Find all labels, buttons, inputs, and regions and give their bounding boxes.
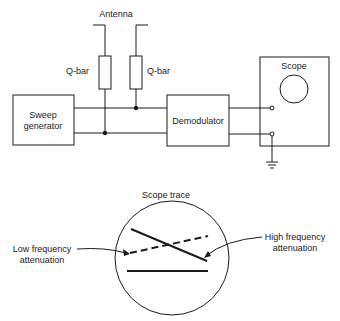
diagram-canvas: Antenna Q-bar Q-bar Sweep generator Demo… (0, 0, 340, 321)
sweep-label-2: generator (24, 121, 63, 131)
low-freq-label-1: Low frequency (13, 244, 72, 254)
ground-icon (266, 162, 278, 168)
high-freq-arrow (206, 237, 262, 256)
qbar-left-label: Q-bar (66, 66, 89, 76)
high-freq-label-2: attenuation (273, 243, 318, 253)
demodulator-label: Demodulator (172, 116, 224, 126)
antenna-label: Antenna (99, 9, 133, 19)
arrowhead-icon (123, 249, 130, 256)
qbar-right (130, 56, 142, 89)
scope-screen-icon (280, 75, 308, 103)
antenna-left (93, 25, 105, 56)
scope-trace-title: Scope trace (142, 190, 190, 200)
qbar-left (99, 56, 111, 89)
sweep-generator-box (13, 95, 74, 145)
trace-dashed (130, 236, 208, 253)
high-freq-label-1: High frequency (265, 232, 326, 242)
junction-dot (134, 106, 138, 110)
terminal-bottom (270, 132, 274, 136)
qbar-right-label: Q-bar (147, 66, 170, 76)
arrowhead-icon (204, 251, 211, 258)
scope-label: Scope (281, 61, 307, 71)
junction-dot (103, 131, 107, 135)
scope-trace-circle (115, 201, 229, 315)
low-freq-arrow (77, 249, 126, 254)
terminal-top (270, 106, 274, 110)
sweep-label-1: Sweep (29, 110, 57, 120)
low-freq-label-2: attenuation (20, 255, 65, 265)
